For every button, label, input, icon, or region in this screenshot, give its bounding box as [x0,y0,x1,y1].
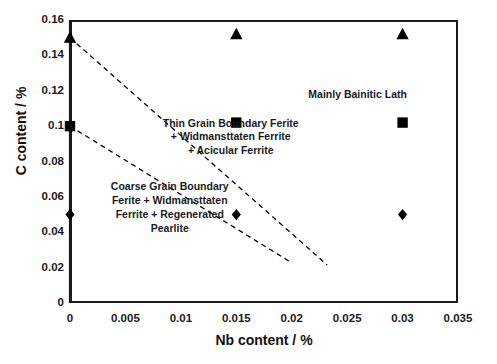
x-tick-label: 0.01 [170,313,192,325]
annotation-line: + Widmansttaten Ferrite [163,130,299,144]
x-tick-label: 0.005 [111,313,140,325]
annotation-coarse-grain-boundary: Coarse Grain BoundaryFerite + Widmanstta… [111,180,229,235]
x-axis-title: Nb content / % [70,332,458,348]
x-tick-label: 0.03 [391,313,413,325]
x-tick-label: 0.035 [444,313,473,325]
annotation-line: Coarse Grain Boundary [111,180,229,194]
annotation-line: Thin Grain Boundary Ferite [163,117,299,131]
x-axis-tick-labels: 00.0050.010.0150.020.0250.030.035 [0,0,497,364]
annotation-mainly-bainitic-lath: Mainly Bainitic Lath [308,88,407,102]
x-tick-label: 0 [67,313,73,325]
x-tick-label: 0.02 [281,313,303,325]
annotation-line: Mainly Bainitic Lath [308,88,407,102]
x-tick-label: 0.015 [222,313,251,325]
annotation-line: Ferrite + Regenerated [111,208,229,222]
annotation-line: Ferite + Widmansttaten [111,194,229,208]
y-axis-title: C content / % [13,66,29,196]
caption-remnant [0,353,497,364]
x-tick-label: 0.025 [333,313,362,325]
annotation-line: Pearlite [111,222,229,236]
chart-figure: 00.020.040.060.080.10.120.140.16 00.0050… [0,0,497,364]
annotation-line: + Acicular Ferrite [163,144,299,158]
annotation-thin-grain-boundary: Thin Grain Boundary Ferite+ Widmansttate… [163,117,299,159]
